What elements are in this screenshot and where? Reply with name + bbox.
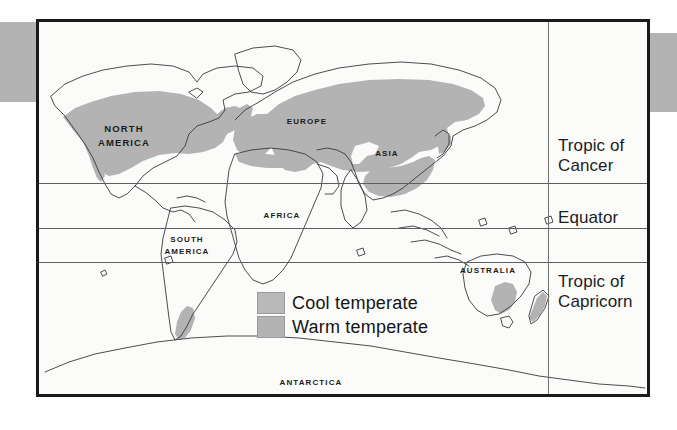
legend-item-warm-temperate: Warm temperate [257, 315, 428, 339]
latitude-line-tropic-of-cancer [39, 183, 647, 184]
label-tropic-of-capricorn: Tropic of Capricorn [558, 272, 633, 312]
map-label-europe: Europe [271, 116, 343, 128]
map-label-north-america: North America [81, 122, 167, 150]
label-tropic-of-cancer: Tropic of Cancer [558, 136, 624, 176]
latitude-line-tropic-of-capricorn [39, 262, 647, 263]
map-label-asia: Asia [359, 148, 415, 160]
label-equator: Equator [558, 208, 618, 228]
map-label-africa: Africa [247, 210, 317, 222]
warm-temperate-swatch [257, 316, 285, 338]
latitude-line-equator [39, 228, 647, 229]
map-label-south-america: South America [147, 234, 227, 257]
figure-root: Tropic of Cancer Equator Tropic of Capri… [0, 0, 677, 430]
label-column-divider [548, 22, 549, 394]
cool-temperate-label: Cool temperate [292, 294, 418, 312]
map-label-australia: Australia [443, 265, 533, 277]
map-legend: Cool temperate Warm temperate [257, 291, 428, 339]
legend-item-cool-temperate: Cool temperate [257, 291, 428, 315]
map-plate: Tropic of Cancer Equator Tropic of Capri… [36, 19, 650, 397]
map-canvas: Tropic of Cancer Equator Tropic of Capri… [39, 22, 647, 394]
cool-temperate-swatch [257, 292, 285, 314]
map-label-antarctica: Antarctica [251, 377, 371, 389]
warm-temperate-label: Warm temperate [292, 318, 428, 336]
